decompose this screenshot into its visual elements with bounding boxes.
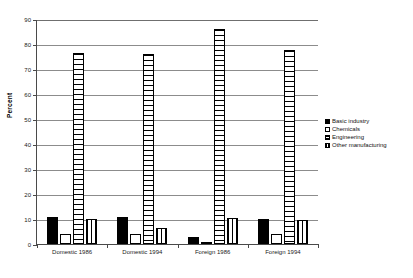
x-axis-tick xyxy=(178,244,179,248)
y-axis-tick-label: 50 xyxy=(24,117,31,123)
y-axis-tick-label: 20 xyxy=(24,192,31,198)
x-axis-tick-label: Domestic 1994 xyxy=(122,249,162,256)
bar-groups: Domestic 1986Domestic 1994Foreign 1986Fo… xyxy=(37,20,318,244)
bar xyxy=(271,234,282,244)
x-axis-tick-label: Domestic 1986 xyxy=(52,249,92,256)
bar-group: Foreign 1994 xyxy=(248,20,318,244)
bar-group: Foreign 1986 xyxy=(178,20,248,244)
bar xyxy=(130,234,141,244)
legend-item-basic-industry: Basic industry xyxy=(325,117,387,125)
legend-label: Other manufacturing xyxy=(332,142,387,149)
legend-swatch-icon xyxy=(325,119,330,124)
bar xyxy=(297,220,308,244)
bar xyxy=(227,218,238,244)
legend-label: Chemicals xyxy=(332,126,360,133)
bar xyxy=(156,228,167,244)
y-axis-tick-label: 10 xyxy=(24,217,31,223)
bar xyxy=(117,217,128,245)
y-axis-tick-label: 40 xyxy=(24,142,31,148)
bar xyxy=(258,219,269,244)
bar-group: Domestic 1986 xyxy=(37,20,107,244)
x-axis-tick-label: Foreign 1986 xyxy=(195,249,230,256)
bar xyxy=(143,54,154,244)
bar-chart: Percent 0102030405060708090 Domestic 198… xyxy=(0,0,413,278)
y-axis-tick-label: 70 xyxy=(24,67,31,73)
bar xyxy=(214,29,225,244)
chart-legend: Basic industry Chemicals Engineering Oth… xyxy=(325,117,387,149)
legend-item-other-manufacturing: Other manufacturing xyxy=(325,141,387,149)
y-axis-tick-label: 0 xyxy=(28,242,31,248)
x-axis-tick-label: Foreign 1994 xyxy=(265,249,300,256)
bar xyxy=(188,237,199,245)
x-axis-tick xyxy=(37,244,38,248)
bar xyxy=(284,50,295,244)
legend-item-chemicals: Chemicals xyxy=(325,125,387,133)
bar xyxy=(201,242,212,244)
legend-item-engineering: Engineering xyxy=(325,133,387,141)
bar xyxy=(86,219,97,244)
y-axis-tick-label: 60 xyxy=(24,92,31,98)
legend-swatch-icon xyxy=(325,143,330,148)
legend-label: Engineering xyxy=(332,134,364,141)
plot-area: 0102030405060708090 Domestic 1986Domesti… xyxy=(36,20,318,245)
y-axis-title: Percent xyxy=(6,93,13,118)
legend-label: Basic industry xyxy=(332,118,369,125)
legend-swatch-icon xyxy=(325,127,330,132)
y-axis-tick-label: 80 xyxy=(24,42,31,48)
y-axis-tick-label: 90 xyxy=(24,17,31,23)
bar xyxy=(60,234,71,244)
x-axis-tick xyxy=(318,244,319,248)
x-axis-tick xyxy=(248,244,249,248)
bar-group: Domestic 1994 xyxy=(107,20,177,244)
x-axis-tick xyxy=(107,244,108,248)
legend-swatch-icon xyxy=(325,135,330,140)
y-axis-tick-label: 30 xyxy=(24,167,31,173)
bar xyxy=(47,217,58,245)
bar xyxy=(73,53,84,244)
